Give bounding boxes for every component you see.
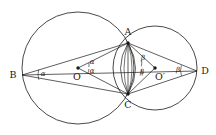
point-label-A: A <box>125 27 132 37</box>
point-marker-A <box>126 41 129 44</box>
point-label-B: B <box>10 70 17 80</box>
angle-label-alpha-at-O-lower: α <box>90 68 95 75</box>
point-marker-O <box>76 66 79 69</box>
point-label-D: D <box>201 66 209 76</box>
lens-arc-inner-left <box>124 43 128 94</box>
geometry-canvas <box>0 0 216 135</box>
point-label-O-prime: O′ <box>155 72 165 82</box>
point-label-O: O <box>73 72 81 82</box>
segment-axis-B-D <box>22 71 197 75</box>
angle-label-beta-at-O-prime-lower: β <box>140 69 144 76</box>
geometry-figure: A B C D O O′ α α α β β β <box>0 0 216 135</box>
segment-B-A <box>22 43 128 75</box>
angle-label-beta-at-D: β <box>176 67 180 74</box>
angle-arc-at-D <box>181 65 182 76</box>
angle-label-alpha-at-O-upper: α <box>90 59 95 66</box>
angle-label-alpha-at-B: α <box>41 71 46 78</box>
point-label-C: C <box>124 100 131 110</box>
angle-label-beta-at-O-prime-upper: β <box>141 55 145 62</box>
segment-A-D <box>128 43 197 71</box>
point-marker-C <box>126 92 129 95</box>
point-marker-O-prime <box>153 66 156 69</box>
